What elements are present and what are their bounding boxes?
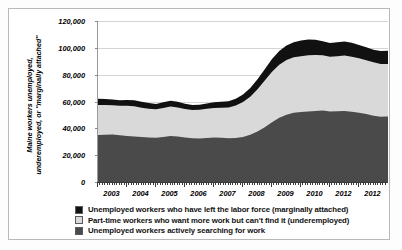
x-axis: 2003200420052006200720082009201020122012: [97, 182, 387, 202]
x-axis-tick: [344, 182, 345, 185]
x-axis-tick: [346, 182, 347, 185]
chart-frame: Maine workers unemployed, underemployed,…: [8, 8, 390, 240]
x-axis-tick: [172, 182, 173, 185]
legend-swatch: [75, 216, 83, 224]
x-axis-tick: [281, 182, 282, 185]
x-axis-tick: [203, 182, 204, 185]
x-axis-tick: [300, 182, 301, 187]
legend-item: Part-time workers who want more work but…: [75, 216, 385, 225]
x-axis-tick: [114, 182, 115, 185]
x-axis-tick: [348, 182, 349, 185]
x-axis-tick: [225, 182, 226, 185]
x-axis-tick: [99, 182, 100, 185]
legend-item: Unemployed workers who have left the lab…: [75, 205, 385, 214]
x-axis-tick: [179, 182, 180, 185]
y-axis-tick-label: 20,000: [29, 151, 85, 160]
x-axis-tick: [331, 182, 332, 185]
x-axis-tick: [319, 182, 320, 185]
x-axis-tick: [109, 182, 110, 185]
x-axis-tick: [186, 182, 187, 185]
x-axis-tick: [237, 182, 238, 185]
x-axis-tick: [273, 182, 274, 185]
x-axis-tick: [249, 182, 250, 185]
x-axis-tick: [261, 182, 262, 185]
x-axis-tick: [208, 182, 209, 185]
x-axis-tick: [286, 182, 287, 185]
y-axis-tick-label: 80,000: [29, 71, 85, 80]
x-axis-tick: [215, 182, 216, 185]
x-axis-tick: [128, 182, 129, 185]
x-axis-tick: [295, 182, 296, 185]
y-axis-tick-label: 0: [29, 178, 85, 187]
x-axis-tick: [102, 182, 103, 185]
x-axis-tick: [293, 182, 294, 185]
x-axis-tick: [189, 182, 190, 185]
x-axis-tick: [199, 182, 200, 185]
x-axis-tick: [283, 182, 284, 185]
x-axis-tick: [276, 182, 277, 185]
legend-label: Part-time workers who want more work but…: [88, 216, 349, 225]
x-axis-tick: [375, 182, 376, 185]
x-axis-tick: [220, 182, 221, 185]
x-axis-tick: [174, 182, 175, 185]
x-axis-tick: [184, 182, 185, 187]
x-axis-tick: [259, 182, 260, 185]
x-axis-tick: [177, 182, 178, 185]
x-axis-tick: [257, 182, 258, 185]
x-axis-tick: [356, 182, 357, 185]
x-axis-tick: [162, 182, 163, 185]
y-axis-tick-label: 120,000: [29, 17, 85, 26]
x-axis-tick: [358, 182, 359, 187]
x-axis-tick: [336, 182, 337, 185]
x-axis-tick: [160, 182, 161, 185]
x-axis-tick-label: 2008: [248, 189, 264, 198]
x-axis-tick: [150, 182, 151, 185]
x-axis-tick: [153, 182, 154, 185]
x-axis-tick: [317, 182, 318, 185]
x-axis-tick: [119, 182, 120, 185]
x-axis-tick-label: 2004: [132, 189, 148, 198]
x-axis-tick: [145, 182, 146, 185]
x-axis-tick: [165, 182, 166, 185]
x-axis-tick: [368, 182, 369, 185]
x-axis-tick: [363, 182, 364, 185]
x-axis-tick: [377, 182, 378, 185]
chart-figure: Maine workers unemployed, underemployed,…: [0, 0, 402, 250]
x-axis-tick: [327, 182, 328, 185]
x-axis-tick: [194, 182, 195, 185]
x-axis-tick: [305, 182, 306, 185]
x-axis-tick: [271, 182, 272, 187]
y-axis-tick-label: 100,000: [29, 44, 85, 53]
x-axis-tick: [116, 182, 117, 185]
x-axis-tick: [254, 182, 255, 185]
plot-area: [97, 21, 388, 183]
x-axis-tick: [288, 182, 289, 185]
x-axis-tick: [360, 182, 361, 185]
plot-wrapper: 020,00040,00060,00080,000100,000120,000: [89, 21, 387, 191]
x-axis-tick: [247, 182, 248, 185]
x-axis-tick: [310, 182, 311, 185]
x-axis-tick: [365, 182, 366, 185]
x-axis-tick: [148, 182, 149, 185]
x-axis-tick: [131, 182, 132, 185]
x-axis-tick-label: 2012: [364, 189, 380, 198]
legend-swatch: [75, 206, 83, 214]
x-axis-tick: [312, 182, 313, 185]
x-axis-tick: [240, 182, 241, 185]
x-axis-tick-label: 2010: [306, 189, 322, 198]
x-axis-tick: [339, 182, 340, 185]
legend-label: Unemployed workers actively searching fo…: [88, 226, 265, 235]
x-axis-tick: [380, 182, 381, 185]
x-axis-tick: [244, 182, 245, 185]
x-axis-tick: [126, 182, 127, 187]
x-axis-tick: [264, 182, 265, 185]
x-axis-tick: [121, 182, 122, 185]
x-axis-tick: [97, 182, 98, 187]
x-axis-tick: [112, 182, 113, 185]
x-axis-tick: [252, 182, 253, 185]
x-axis-tick-label: 2012: [335, 189, 351, 198]
x-axis-tick: [329, 182, 330, 187]
x-axis-tick: [182, 182, 183, 185]
x-axis-tick: [266, 182, 267, 185]
x-axis-tick: [269, 182, 270, 185]
